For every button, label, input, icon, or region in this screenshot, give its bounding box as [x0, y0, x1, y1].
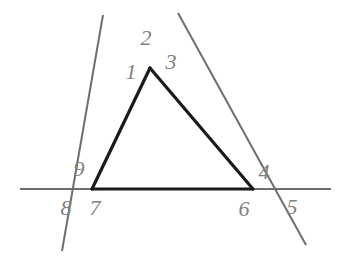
angle-label-3: 3: [166, 51, 177, 73]
geometry-diagram: 123456789: [0, 0, 347, 267]
angle-label-4: 4: [259, 161, 270, 183]
diagram-canvas: [0, 0, 347, 267]
angle-label-1: 1: [126, 61, 137, 83]
angle-label-7: 7: [90, 197, 101, 219]
angle-label-8: 8: [61, 197, 72, 219]
angle-label-9: 9: [74, 158, 85, 180]
angle-label-5: 5: [287, 196, 298, 218]
triangle-edge-right: [150, 68, 253, 189]
triangle-group: [92, 68, 253, 189]
angle-label-6: 6: [239, 198, 250, 220]
triangle-edge-left: [92, 68, 150, 189]
angle-label-2: 2: [141, 27, 152, 49]
